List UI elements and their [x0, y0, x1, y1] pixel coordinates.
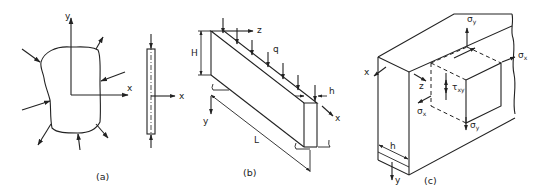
right-support-back — [318, 140, 330, 147]
stress-element — [431, 47, 501, 123]
beam-top-face — [211, 31, 317, 103]
x-axis-label: x — [364, 67, 370, 77]
cube-hidden-edge — [431, 47, 467, 63]
q-label: q — [273, 44, 279, 54]
force-arrow — [101, 72, 125, 81]
cube-front-face — [466, 63, 501, 123]
z-axis-label: z — [419, 81, 424, 91]
slab-h-guide — [378, 152, 409, 167]
force-arrow — [96, 37, 103, 49]
tau-xy-label: τxy — [452, 82, 465, 94]
L-label: L — [254, 135, 259, 145]
distributed-load-arrows — [223, 18, 315, 101]
z-axis-label: z — [257, 25, 262, 35]
tau-back-arrow — [454, 48, 475, 58]
force-arrow — [96, 124, 108, 138]
y-axis-label: y — [203, 116, 209, 126]
slab-cut-edge — [512, 14, 515, 114]
H-label: H — [191, 48, 198, 58]
panel-c: x z y h σy σx τxy σx σy (c) — [364, 14, 528, 186]
z-axis-arrow — [414, 74, 426, 81]
x-axis-label: x — [127, 83, 133, 93]
panel-b: H z q h x y L (b) — [191, 18, 341, 178]
slab-bottom-edge — [378, 118, 515, 175]
caption-c: (c) — [424, 175, 437, 186]
force-arrow — [78, 134, 80, 150]
y-axis-label: y — [395, 175, 401, 185]
slab-top-front-edge — [378, 26, 512, 72]
cube-hidden-edge — [431, 63, 466, 80]
sigma-y-bottom-label: σy — [470, 120, 480, 132]
L-dimension-line — [211, 95, 310, 171]
panel-a: y x x (a) — [22, 11, 185, 182]
sigma-x-left-label: σx — [417, 106, 427, 117]
caption-b: (b) — [243, 167, 256, 178]
side-x-axis-label: x — [179, 91, 185, 101]
x-axis-label: x — [335, 113, 341, 123]
x-axis-arrow — [374, 67, 386, 76]
force-arrow — [22, 101, 50, 110]
plate-side-view — [147, 49, 155, 134]
h-label: h — [390, 141, 396, 151]
force-arrow — [22, 49, 40, 62]
sigma-y-top-label: σy — [467, 14, 477, 26]
force-arrow — [38, 124, 51, 145]
cube-hidden-edge — [431, 106, 466, 123]
h-label: h — [329, 86, 335, 96]
elasticity-figure: y x x (a) — [0, 0, 547, 192]
sigma-x-left-arrow — [418, 96, 431, 103]
y-axis-label: y — [65, 11, 71, 21]
sigma-x-right-label: σx — [518, 50, 528, 61]
caption-a: (a) — [96, 171, 109, 182]
x-axis-arrow — [322, 106, 333, 116]
